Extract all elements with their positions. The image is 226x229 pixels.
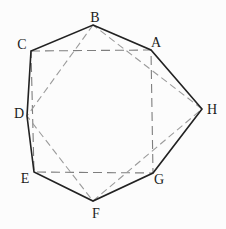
dashed-diamond-BDFH [27,25,202,201]
vertex-label-D: D [14,106,24,121]
vertex-label-E: E [21,171,30,186]
vertex-label-A: A [151,35,162,50]
vertex-label-F: F [92,206,100,221]
geometry-svg: ABCDEFGH [0,0,226,229]
vertex-label-H: H [207,102,217,117]
dashed-square-CAGE [31,50,153,173]
vertex-label-C: C [17,37,26,52]
vertex-label-G: G [154,172,164,187]
vertex-label-B: B [90,10,99,25]
geometry-diagram: ABCDEFGH [0,0,226,229]
octagon-outline [27,25,202,201]
